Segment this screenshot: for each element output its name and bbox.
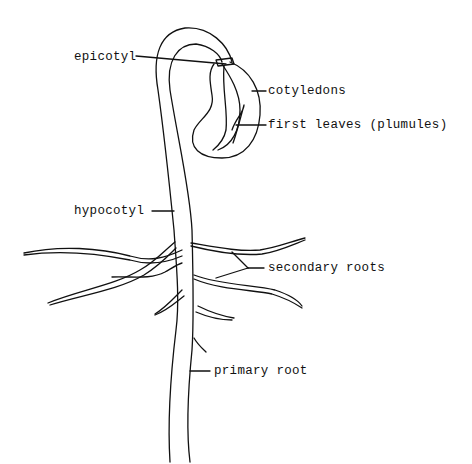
seedling-drawing bbox=[0, 0, 472, 464]
label-secondary-roots: secondary roots bbox=[268, 262, 385, 275]
label-cotyledons: cotyledons bbox=[268, 85, 346, 98]
label-hypocotyl: hypocotyl bbox=[74, 205, 144, 218]
label-primary-root: primary root bbox=[214, 365, 308, 378]
secondary-roots-right bbox=[191, 238, 305, 352]
leader-lines bbox=[136, 56, 266, 371]
stem-outline bbox=[156, 28, 232, 462]
secondary-roots-left bbox=[24, 242, 184, 315]
label-epicotyl: epicotyl bbox=[74, 51, 136, 64]
seedling-diagram: epicotyl cotyledons first leaves (plumul… bbox=[0, 0, 472, 464]
label-first-leaves: first leaves (plumules) bbox=[268, 119, 447, 132]
